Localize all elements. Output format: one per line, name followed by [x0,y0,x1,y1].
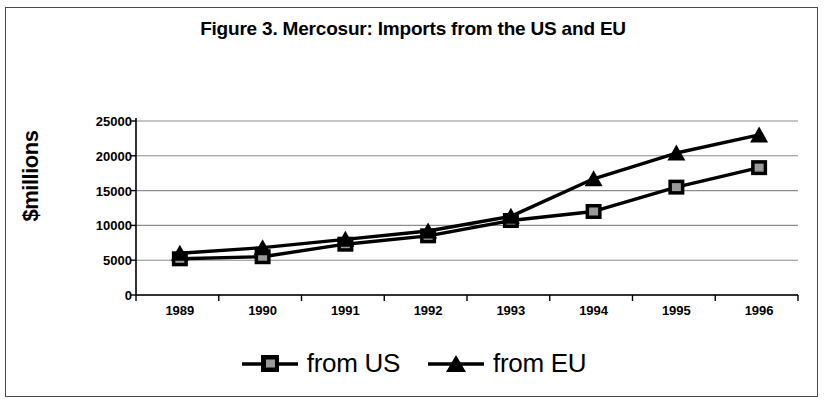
figure-container: Figure 3. Mercosur: Imports from the US … [0,0,826,410]
legend-triangle-marker-icon [426,351,486,377]
data-point-us [751,160,767,175]
x-tick-label: 1990 [248,303,277,318]
x-tick-label: 1994 [579,303,608,318]
legend-item-us[interactable]: from US [240,348,400,379]
y-tick-label: 10000 [60,218,132,233]
x-tick-label: 1989 [165,303,194,318]
legend-item-eu[interactable]: from EU [426,348,586,379]
x-tick-label: 1991 [331,303,360,318]
y-tick-label: 0 [60,288,132,303]
x-axis-tick-labels: 19891990199119921993199419951996 [0,303,826,325]
x-tick-label: 1992 [414,303,443,318]
y-axis-tick-labels: 0500010000150002000025000 [60,110,132,305]
y-tick-label: 25000 [60,114,132,129]
legend-marker-fill [266,359,275,367]
legend-label: from US [307,348,400,379]
marker-square-fill [672,183,681,191]
chart-legend: from USfrom EU [0,348,826,379]
data-point-us [586,204,602,219]
y-tick-label: 20000 [60,148,132,163]
marker-square-fill [589,207,598,215]
x-tick-label: 1995 [662,303,691,318]
legend-square-marker-icon [240,351,300,377]
x-tick-label: 1993 [496,303,525,318]
marker-square-fill [755,164,764,172]
legend-label: from EU [493,348,586,379]
y-tick-label: 5000 [60,253,132,268]
y-tick-label: 15000 [60,183,132,198]
x-tick-label: 1996 [745,303,774,318]
data-point-us [668,180,684,195]
data-point-eu [750,126,768,142]
